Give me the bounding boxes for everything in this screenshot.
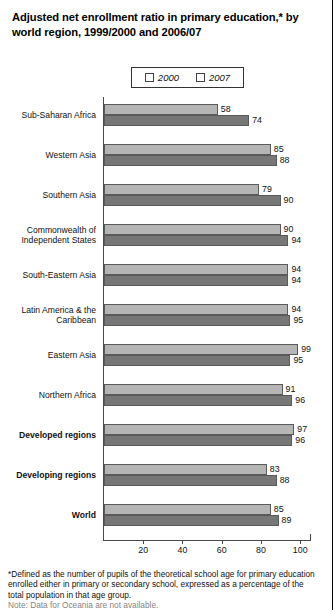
footnote-clipped: Note: Data for Oceania are not available…: [8, 600, 318, 609]
bar-group-2007: 95: [104, 315, 314, 326]
bar-2000: [104, 464, 267, 475]
bar-group-2000: 79: [104, 184, 314, 195]
legend-label-2007: 2007: [209, 72, 230, 83]
bar-value-label: 85: [274, 504, 284, 515]
bar-group-2007: 89: [104, 515, 314, 526]
x-axis-ticks: 20406080100: [0, 540, 320, 558]
bar-value-label: 94: [291, 264, 301, 275]
bar-group-2007: 94: [104, 235, 314, 246]
bar-value-label: 96: [295, 435, 305, 446]
category-label-line: Caribbean: [0, 315, 96, 325]
bar-group-2007: 96: [104, 435, 314, 446]
bar-value-label: 94: [291, 304, 301, 315]
x-tick-label: 80: [256, 545, 266, 555]
x-tick-mark: [143, 540, 144, 544]
bar-group-2000: 91: [104, 384, 314, 395]
legend-entry-2007: 2007: [196, 72, 230, 83]
category-label-line: South-Eastern Asia: [0, 270, 96, 280]
bar-2000: [104, 424, 294, 435]
chart-row: Latin America & theCaribbean9495: [0, 304, 320, 328]
category-label: Southern Asia: [0, 190, 96, 200]
x-tick-label: 40: [178, 545, 188, 555]
bar-value-label: 85: [274, 144, 284, 155]
category-label: Eastern Asia: [0, 350, 96, 360]
category-label: Developed regions: [0, 430, 96, 440]
category-label-line: Independent States: [0, 235, 96, 245]
chart-legend: 2000 2007: [131, 67, 244, 88]
bar-2000: [104, 104, 218, 115]
category-label: South-Eastern Asia: [0, 270, 96, 280]
bar-value-label: 91: [286, 384, 296, 395]
bar-2007: [104, 235, 288, 246]
category-label-line: Western Asia: [0, 150, 96, 160]
bar-group-2007: 88: [104, 475, 314, 486]
x-tick-label: 100: [293, 545, 308, 555]
legend-swatch-2007: [196, 73, 205, 82]
x-tick-label: 60: [217, 545, 227, 555]
bar-value-label: 58: [221, 104, 231, 115]
bar-value-label: 89: [282, 515, 292, 526]
x-tick-mark: [300, 540, 301, 544]
bar-value-label: 74: [252, 115, 262, 126]
bar-group-2000: 99: [104, 344, 314, 355]
bar-group-2000: 90: [104, 224, 314, 235]
bar-value-label: 88: [280, 155, 290, 166]
category-label-line: Sub-Saharan Africa: [0, 110, 96, 120]
bar-value-label: 95: [293, 315, 303, 326]
bar-value-label: 79: [262, 184, 272, 195]
bar-2000: [104, 504, 271, 515]
bar-value-label: 96: [295, 395, 305, 406]
bar-2007: [104, 275, 288, 286]
chart-row: Northern Africa9196: [0, 384, 320, 408]
bar-2000: [104, 384, 283, 395]
bar-group-2000: 85: [104, 144, 314, 155]
page-title: Adjusted net enrollment ratio in primary…: [12, 10, 312, 40]
x-tick-label: 20: [138, 545, 148, 555]
bar-group-2007: 74: [104, 115, 314, 126]
category-label-line: Southern Asia: [0, 190, 96, 200]
bar-value-label: 99: [301, 344, 311, 355]
bar-2007: [104, 195, 281, 206]
category-label: Northern Africa: [0, 390, 96, 400]
bar-2007: [104, 515, 279, 526]
chart-row: Western Asia8588: [0, 144, 320, 168]
bar-2000: [104, 344, 298, 355]
chart-row: Developing regions8388: [0, 464, 320, 488]
chart-row: World8589: [0, 504, 320, 528]
bar-group-2000: 94: [104, 304, 314, 315]
chart-row: Commonwealth ofIndependent States9094: [0, 224, 320, 248]
category-label-line: Eastern Asia: [0, 350, 96, 360]
category-label: Latin America & theCaribbean: [0, 305, 96, 325]
bar-group-2000: 58: [104, 104, 314, 115]
bar-value-label: 88: [280, 475, 290, 486]
category-label-line: World: [0, 510, 96, 520]
bar-2007: [104, 115, 249, 126]
bar-value-label: 90: [284, 195, 294, 206]
chart-row: Southern Asia7990: [0, 184, 320, 208]
x-tick-mark: [222, 540, 223, 544]
category-label: Developing regions: [0, 470, 96, 480]
category-label: Commonwealth ofIndependent States: [0, 225, 96, 245]
bar-2007: [104, 355, 290, 366]
bar-value-label: 97: [297, 424, 307, 435]
chart-page: Adjusted net enrollment ratio in primary…: [0, 0, 333, 610]
category-label: World: [0, 510, 96, 520]
chart-row: Eastern Asia9995: [0, 344, 320, 368]
footnote: *Defined as the number of pupils of the …: [8, 569, 318, 600]
category-label-line: Developing regions: [0, 470, 96, 480]
bar-group-2007: 90: [104, 195, 314, 206]
bar-value-label: 83: [270, 464, 280, 475]
bar-2007: [104, 155, 277, 166]
legend-label-2000: 2000: [158, 72, 179, 83]
category-label-line: Latin America & the: [0, 305, 96, 315]
chart-row: South-Eastern Asia9494: [0, 264, 320, 288]
category-label-line: Northern Africa: [0, 390, 96, 400]
bar-value-label: 95: [293, 355, 303, 366]
bar-2007: [104, 395, 292, 406]
bar-2007: [104, 435, 292, 446]
bar-2007: [104, 315, 290, 326]
legend-entry-2000: 2000: [145, 72, 179, 83]
x-tick-mark: [182, 540, 183, 544]
bar-group-2007: 88: [104, 155, 314, 166]
bar-group-2007: 95: [104, 355, 314, 366]
